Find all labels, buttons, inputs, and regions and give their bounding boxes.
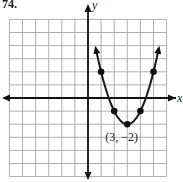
graph: (3, −2) x y: [0, 0, 183, 182]
x-axis-label: x: [176, 91, 183, 105]
y-axis-label: y: [91, 0, 98, 12]
vertex-label: (3, −2): [105, 130, 138, 144]
axes: [2, 4, 176, 180]
